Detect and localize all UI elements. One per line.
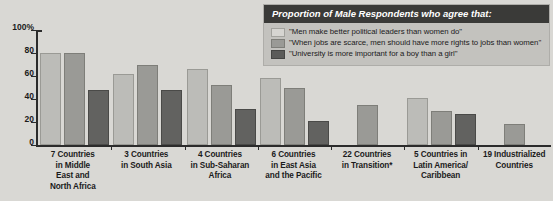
x-axis-label-line: 6 Countries [257,150,331,161]
group-divider-tick [258,146,259,150]
x-axis-label-line: in Middle [36,161,110,172]
legend: Proportion of Male Respondents who agree… [263,4,550,66]
bar [88,90,109,145]
legend-items: "Men make better political leaders than … [264,23,549,65]
y-axis-tick-label: 100% [0,23,34,31]
y-axis-tick-mark [31,145,36,146]
x-axis-category-label: 4 Countriesin Sub-SaharanAfrica [183,150,257,182]
x-axis-label-line: in Transition* [330,161,404,172]
y-axis-tick-mark [31,99,36,100]
legend-item-label: "Men make better political leaders than … [289,27,462,37]
legend-item: "When jobs are scarce, men should have m… [271,38,543,48]
x-axis-category-label: 19 IndustrializedCountries [477,150,551,171]
group-divider-tick [111,146,112,150]
bar [504,124,525,145]
x-axis-category-label: 6 Countriesin East Asiaand the Pacific [257,150,331,182]
bar [357,105,378,145]
bar [64,53,85,145]
y-axis-labels: 100%806040200 [0,27,34,145]
bar-group [38,30,111,145]
x-axis-labels: 7 Countriesin MiddleEast andNorth Africa… [36,150,551,200]
x-axis-label-line: in South Asia [110,161,184,172]
x-axis-label-line: in East Asia [257,161,331,172]
y-axis-tick-mark [31,76,36,77]
y-axis-tick-label: 20 [0,115,34,123]
x-axis-label-line: Caribbean [404,171,478,182]
legend-swatch [271,28,285,37]
y-axis-tick-label: 60 [0,69,34,77]
bar [211,85,232,145]
group-divider-tick [331,146,332,150]
x-axis-label-line: 4 Countries [183,150,257,161]
x-axis-label-line: Countries [477,161,551,172]
bar [137,65,158,146]
x-axis-label-line: in Sub-Saharan [183,161,257,172]
x-axis-label-line: Latin America/ [404,161,478,172]
legend-item-label: "When jobs are scarce, men should have m… [289,38,541,48]
bar [308,121,329,145]
x-axis-label-line: 7 Countries [36,150,110,161]
x-axis-category-label: 7 Countriesin MiddleEast andNorth Africa [36,150,110,192]
legend-item-label: "University is more important for a boy … [289,49,457,59]
bar [161,90,182,145]
x-axis-label-line: 3 Countries [110,150,184,161]
legend-item: "University is more important for a boy … [271,49,543,59]
x-axis-label-line: and the Pacific [257,171,331,182]
group-divider-tick [478,146,479,150]
x-axis-label-line: Africa [183,171,257,182]
bar [40,53,61,145]
y-axis-tick-mark [31,53,36,54]
bar [284,88,305,146]
bar [260,78,281,145]
bar-group [111,30,184,145]
legend-header: Proportion of Male Respondents who agree… [264,5,549,23]
legend-title: Proportion of Male Respondents who agree… [272,8,543,19]
group-divider-tick [185,146,186,150]
x-axis-label-line: 5 Countries in [404,150,478,161]
chart-container: 100%806040200 7 Countriesin MiddleEast a… [0,0,553,201]
bar [431,111,452,146]
y-axis-tick-mark [31,122,36,123]
legend-swatch [271,39,285,48]
bar [187,69,208,145]
legend-swatch [271,50,285,59]
bar-group [185,30,258,145]
legend-item: "Men make better political leaders than … [271,27,543,37]
x-axis-label-line: 22 Countries [330,150,404,161]
bar [235,109,256,145]
x-axis-category-label: 3 Countriesin South Asia [110,150,184,171]
x-axis-label-line: 19 Industrialized [477,150,551,161]
y-axis-tick-label: 40 [0,92,34,100]
group-divider-tick [404,146,405,150]
x-axis-category-label: 22 Countriesin Transition* [330,150,404,171]
x-axis-category-label: 5 Countries inLatin America/Caribbean [404,150,478,182]
bar [113,74,134,145]
bar [455,114,476,145]
y-axis-tick-label: 80 [0,46,34,54]
y-axis-tick-mark [31,30,36,31]
y-axis-tick-label: 0 [0,138,34,146]
bar [407,98,428,145]
x-axis-baseline [36,145,551,147]
x-axis-label-line: East and [36,171,110,182]
x-axis-label-line: North Africa [36,182,110,193]
